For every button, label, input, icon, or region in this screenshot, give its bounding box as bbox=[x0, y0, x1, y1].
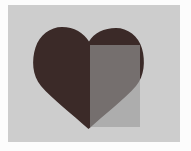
translucent-overlay-rectangle bbox=[90, 45, 140, 127]
image-canvas bbox=[0, 0, 191, 151]
figure-svg bbox=[0, 0, 191, 151]
